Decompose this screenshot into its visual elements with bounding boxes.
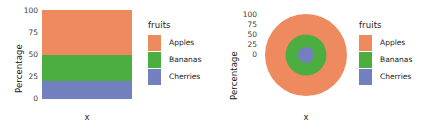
figure: Percentage 100 75 50 25 0 x fruits Apple… <box>0 0 426 129</box>
pie-legend-swatch-cherries-icon <box>359 69 372 85</box>
pie-y-tick-75: 75 <box>233 20 257 29</box>
pie-legend-item-cherries[interactable]: Cherries <box>359 68 412 85</box>
pie-y-tick-100: 100 <box>233 10 257 19</box>
bar-legend-title: fruits <box>148 20 201 30</box>
concentric-pie-panel: Percentage 100 75 50 25 0 x fruits Apple… <box>213 0 426 129</box>
pie-legend-swatch-bananas-icon <box>359 52 372 68</box>
bar-x-axis-label: x <box>42 112 132 122</box>
bar-segment-apples <box>42 10 132 55</box>
bar-y-tick-100: 100 <box>14 6 38 15</box>
stacked-bar-panel: Percentage 100 75 50 25 0 x fruits Apple… <box>0 0 213 129</box>
ring-cherries <box>298 47 314 63</box>
bar-y-tick-50: 50 <box>14 50 38 59</box>
pie-legend-label-apples: Apples <box>380 38 405 47</box>
pie-legend-swatch-apples-icon <box>359 35 372 51</box>
bar-legend-label-bananas: Bananas <box>169 55 201 64</box>
pie-legend: fruits Apples Bananas Cherries <box>359 20 412 85</box>
pie-y-tick-0: 0 <box>233 50 257 59</box>
bar-y-tick-25: 25 <box>14 72 38 81</box>
bar-legend-swatch-bananas-icon <box>148 52 161 68</box>
pie-legend-title: fruits <box>359 20 412 30</box>
pie-plot-area <box>260 10 352 99</box>
bar-segment-bananas <box>42 55 132 82</box>
bar-legend-label-apples: Apples <box>169 38 194 47</box>
bar-legend-swatch-apples-icon <box>148 35 161 51</box>
pie-legend-item-apples[interactable]: Apples <box>359 34 412 51</box>
pie-y-tick-25: 25 <box>233 40 257 49</box>
bar-legend: fruits Apples Bananas Cherries <box>148 20 201 85</box>
bar-legend-item-bananas[interactable]: Bananas <box>148 51 201 68</box>
pie-legend-label-cherries: Cherries <box>380 72 411 81</box>
pie-x-axis-label: x <box>260 112 352 122</box>
bar-legend-item-cherries[interactable]: Cherries <box>148 68 201 85</box>
bar-legend-item-apples[interactable]: Apples <box>148 34 201 51</box>
bar-segment-cherries <box>42 81 132 99</box>
pie-y-tick-50: 50 <box>233 30 257 39</box>
bar-y-tick-0: 0 <box>14 94 38 103</box>
bar-legend-swatch-cherries-icon <box>148 69 161 85</box>
pie-legend-item-bananas[interactable]: Bananas <box>359 51 412 68</box>
bar-plot-area <box>42 10 132 99</box>
bar-y-tick-75: 75 <box>14 28 38 37</box>
bar-legend-label-cherries: Cherries <box>169 72 200 81</box>
pie-legend-label-bananas: Bananas <box>380 55 412 64</box>
